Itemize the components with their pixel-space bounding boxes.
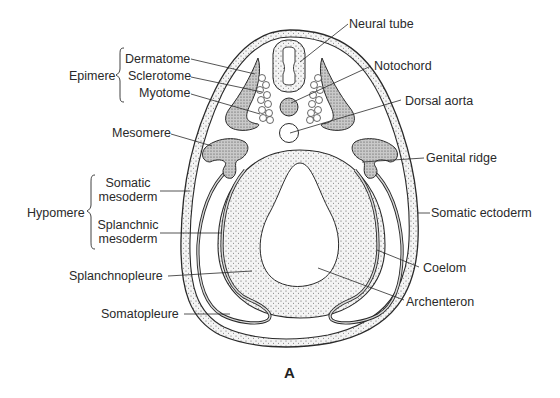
label-archenteron: Archenteron — [406, 295, 474, 309]
label-dorsal-aorta: Dorsal aorta — [405, 94, 473, 108]
label-hypomere: Hypomere — [27, 206, 85, 220]
label-notochord: Notochord — [374, 59, 432, 73]
label-epimere: Epimere — [69, 69, 116, 83]
label-splanchnopleure: Splanchnopleure — [69, 269, 163, 283]
label-coelom: Coelom — [423, 261, 466, 275]
label-splanchnic-mesoderm-line2: mesoderm — [95, 232, 161, 246]
label-neural-tube: Neural tube — [349, 17, 414, 31]
label-splanchnic-mesoderm: Splanchnic mesoderm — [95, 218, 161, 246]
epimere-brace — [116, 48, 124, 102]
label-mesomere: Mesomere — [112, 126, 171, 140]
label-dermatome: Dermatome — [125, 52, 190, 66]
label-sclerotome: Sclerotome — [128, 69, 191, 83]
dorsal-aorta-shape — [280, 124, 299, 143]
neural-tube-shape — [273, 40, 305, 92]
hypomere-brace — [87, 175, 95, 249]
label-somatic-ectoderm: Somatic ectoderm — [431, 206, 532, 220]
figure-caption: A — [284, 364, 295, 381]
label-somatic-mesoderm-line1: Somatic — [97, 176, 159, 190]
label-somatic-mesoderm: Somatic mesoderm — [97, 176, 159, 204]
label-genital-ridge: Genital ridge — [426, 151, 497, 165]
label-somatic-mesoderm-line2: mesoderm — [97, 190, 159, 204]
label-myotome: Myotome — [139, 86, 190, 100]
label-somatopleure: Somatopleure — [101, 307, 179, 321]
label-splanchnic-mesoderm-line1: Splanchnic — [95, 218, 161, 232]
embryo-cross-section-diagram — [0, 0, 560, 398]
